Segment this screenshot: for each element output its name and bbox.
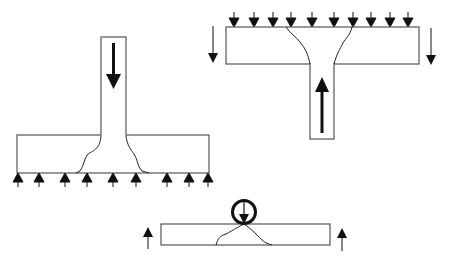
punching-shear-diagram — [0, 0, 449, 266]
slab — [161, 224, 330, 245]
slab — [17, 135, 209, 173]
support-arrows-up — [13, 173, 213, 187]
side-arrow-up-icon — [143, 227, 153, 249]
side-arrow-down-icon — [208, 26, 218, 63]
point-load-arrow-down-icon — [239, 202, 249, 224]
panel-column-on-slab — [13, 37, 213, 187]
crack-line — [216, 224, 244, 245]
crack-line — [76, 136, 101, 173]
panel-point-load-beam — [143, 201, 347, 252]
crack-line — [244, 224, 272, 245]
side-arrow-down-icon — [426, 28, 436, 65]
slab — [226, 27, 419, 64]
side-arrow-up-icon — [337, 228, 347, 251]
panel-slab-on-column — [208, 12, 436, 139]
crack-line — [126, 136, 149, 173]
load-arrows-down — [229, 12, 413, 27]
